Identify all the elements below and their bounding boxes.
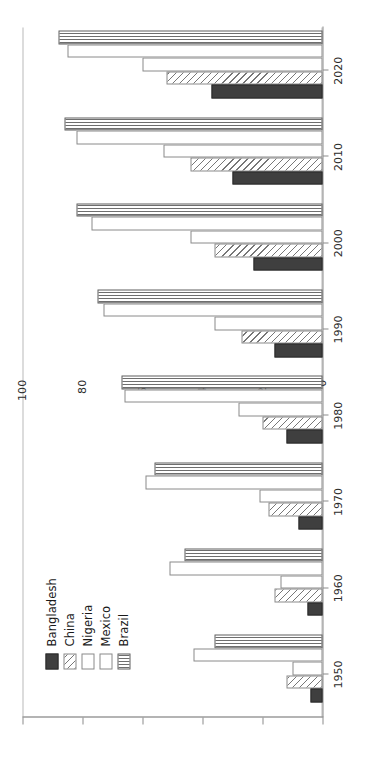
legend-item-bangladesh[interactable]: Bangladesh [44, 578, 58, 669]
legend-item-label: Brazil [116, 613, 130, 646]
value-axis-tick [262, 717, 263, 724]
bar-mexico-1970 [145, 475, 322, 489]
bar-brazil-1990 [97, 289, 322, 303]
value-axis-tick [22, 717, 23, 724]
bar-bangladesh-1990 [274, 343, 322, 357]
bar-bangladesh-2020 [211, 84, 322, 98]
category-axis-tick [322, 242, 328, 243]
category-axis-tick [322, 328, 328, 329]
category-axis-tick [322, 500, 328, 501]
category-axis-tick-label: 1990 [331, 315, 344, 343]
bar-bangladesh-1950 [310, 688, 322, 702]
legend-swatch-icon [99, 653, 112, 669]
bar-nigeria-1990 [214, 316, 322, 330]
category-axis-tick [322, 414, 328, 415]
bar-bangladesh-1970 [298, 516, 322, 530]
bar-china-2000 [214, 243, 322, 257]
legend-item-nigeria[interactable]: Nigeria [80, 578, 94, 669]
bar-brazil-1960 [184, 548, 322, 562]
bar-nigeria-1950 [292, 661, 322, 675]
category-axis-tick-label: 1950 [331, 660, 344, 688]
bar-china-1970 [268, 502, 322, 516]
bar-brazil-1970 [154, 462, 322, 476]
legend-swatch-icon [81, 653, 94, 669]
category-axis-tick [322, 155, 328, 156]
bar-mexico-2020 [67, 44, 322, 58]
chart-figure-rotator: 020406080100 195019601970198019902000201… [0, 0, 373, 779]
bar-chart-figure: 020406080100 195019601970198019902000201… [0, 0, 373, 779]
bar-nigeria-2010 [163, 144, 322, 158]
category-axis-tick-label: 2020 [331, 56, 344, 84]
bar-brazil-2010 [64, 117, 322, 131]
category-axis-tick-label: 2000 [331, 229, 344, 257]
category-axis-tick [322, 69, 328, 70]
bar-brazil-1980 [121, 375, 322, 389]
bar-china-1960 [274, 588, 322, 602]
bar-mexico-1990 [103, 303, 322, 317]
category-axis-tick-label: 1960 [331, 574, 344, 602]
bar-nigeria-1980 [238, 402, 322, 416]
bar-bangladesh-2000 [253, 257, 322, 271]
bar-mexico-1950 [193, 648, 322, 662]
legend-item-label: Nigeria [80, 604, 94, 646]
bar-bangladesh-1980 [286, 429, 322, 443]
bar-china-2010 [190, 157, 322, 171]
bar-brazil-2000 [76, 203, 322, 217]
value-axis-tick [82, 717, 83, 724]
bar-mexico-2010 [76, 130, 322, 144]
legend-item-mexico[interactable]: Mexico [98, 578, 112, 669]
legend-swatch-icon [63, 653, 76, 669]
bar-nigeria-2000 [190, 230, 322, 244]
legend-item-brazil[interactable]: Brazil [116, 578, 130, 669]
category-axis-tick-label: 2010 [331, 142, 344, 170]
bar-mexico-2000 [91, 216, 322, 230]
category-axis-tick-label: 1970 [331, 487, 344, 515]
value-axis-tick [202, 717, 203, 724]
bar-brazil-2020 [58, 30, 322, 44]
bar-bangladesh-1960 [307, 602, 322, 616]
bar-nigeria-1960 [280, 575, 322, 589]
bar-brazil-1950 [214, 634, 322, 648]
legend-item-china[interactable]: China [62, 578, 76, 669]
bar-bangladesh-2010 [232, 171, 322, 185]
value-axis-tick [322, 717, 323, 724]
bar-nigeria-1970 [259, 489, 322, 503]
legend-swatch-icon [117, 653, 130, 669]
legend-item-label: China [62, 613, 76, 646]
category-axis-tick-label: 1980 [331, 401, 344, 429]
bar-china-1990 [241, 330, 322, 344]
bar-nigeria-2020 [142, 57, 322, 71]
legend-item-label: Mexico [98, 605, 112, 646]
bar-china-1980 [262, 416, 322, 430]
category-axis-tick [322, 673, 328, 674]
chart-legend: BangladeshChinaNigeriaMexicoBrazil [44, 578, 130, 669]
bar-mexico-1980 [124, 389, 322, 403]
bar-china-1950 [286, 675, 322, 689]
value-axis-tick [142, 717, 143, 724]
legend-item-label: Bangladesh [44, 578, 58, 646]
bar-china-2020 [166, 71, 322, 85]
bar-mexico-1960 [169, 561, 322, 575]
legend-swatch-icon [45, 653, 58, 669]
category-axis-tick [322, 587, 328, 588]
